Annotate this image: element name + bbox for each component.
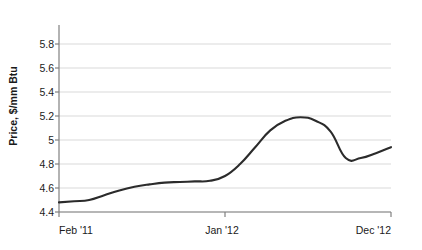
- x-axis-tick-label-start: Feb '11: [59, 224, 93, 236]
- x-axis-ticks: [59, 212, 391, 217]
- gridlines: [55, 44, 391, 212]
- axis-lines: [59, 25, 391, 212]
- price-line-chart: Price, $/mm Btu 4.44.64.855.25.45.65.8 F…: [0, 0, 422, 250]
- plot-area: [0, 0, 422, 250]
- x-axis-tick-label-middle: Jan '12: [205, 224, 239, 236]
- x-axis-tick-label-end: Dec '12: [356, 224, 391, 236]
- price-series-line: [59, 117, 391, 202]
